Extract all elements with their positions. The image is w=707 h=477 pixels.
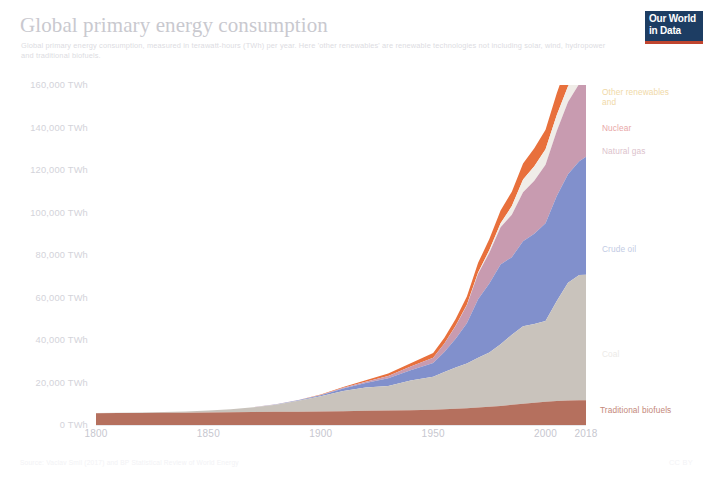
our-world-in-data-logo[interactable]: Our World in Data (645, 11, 703, 44)
series-label-line2: and (602, 98, 669, 108)
x-axis-tick: 1850 (197, 428, 220, 439)
plot-area (96, 85, 586, 425)
series-label-nuclear[interactable]: Nuclear (602, 124, 631, 134)
top-divider (255, 0, 455, 4)
x-axis: 180018501900195020002018 (96, 428, 596, 446)
y-axis-tick: 100,000 TWh (30, 208, 88, 218)
y-axis-tick: 80,000 TWh (36, 250, 88, 260)
x-axis-tick: 1900 (309, 428, 332, 439)
series-label-traditional-biofuels[interactable]: Traditional biofuels (600, 406, 671, 416)
series-label-natural-gas[interactable]: Natural gas (602, 147, 646, 157)
page-title: Global primary energy consumption (20, 13, 328, 38)
x-axis-tick: 2018 (574, 428, 597, 439)
chart-subtitle: Global primary energy consumption, measu… (21, 41, 611, 62)
logo-line-2: in Data (649, 25, 699, 37)
chart-page: Global primary energy consumption Global… (0, 0, 707, 477)
y-axis-tick: 20,000 TWh (36, 378, 88, 388)
y-axis-tick: 140,000 TWh (30, 123, 88, 133)
series-label-other-renewables[interactable]: Other renewablesand (602, 88, 669, 107)
y-axis: 0 TWh20,000 TWh40,000 TWh60,000 TWh80,00… (0, 85, 92, 425)
y-axis-tick: 160,000 TWh (30, 80, 88, 90)
series-label-crude-oil[interactable]: Crude oil (602, 245, 636, 255)
x-axis-tick: 2000 (534, 428, 557, 439)
source-note: Source: Vaclav Smil (2017) and BP Statis… (20, 459, 239, 466)
series-label-coal[interactable]: Coal (602, 350, 619, 360)
license-note: CC BY (669, 458, 693, 467)
y-axis-tick: 60,000 TWh (36, 293, 88, 303)
logo-line-1: Our World (649, 13, 699, 25)
x-axis-line (96, 425, 586, 426)
y-axis-tick: 40,000 TWh (36, 335, 88, 345)
x-axis-tick: 1800 (84, 428, 107, 439)
y-axis-tick: 120,000 TWh (30, 165, 88, 175)
stacked-area-chart (96, 85, 586, 425)
x-axis-tick: 1950 (422, 428, 445, 439)
